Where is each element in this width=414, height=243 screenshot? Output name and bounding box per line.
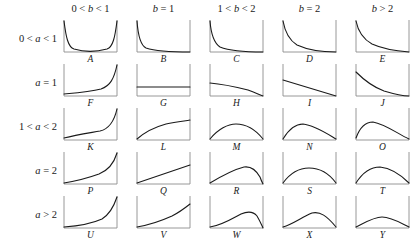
panel-G-axes <box>137 64 190 96</box>
panel-D-plot <box>281 19 338 55</box>
panel-S-plot <box>281 151 338 187</box>
panel-W-letter: W <box>208 230 265 240</box>
panel-C-curve <box>210 21 263 52</box>
panel-E: E <box>354 19 411 55</box>
panel-X-curve <box>283 213 336 227</box>
panel-Y-letter: Y <box>354 230 411 240</box>
panel-O-curve <box>356 122 409 139</box>
panel-A-plot <box>62 19 119 55</box>
panel-L-axes <box>137 108 190 140</box>
panel-K-plot <box>62 107 119 143</box>
panel-Y-curve <box>356 217 409 227</box>
panel-V-axes <box>137 196 190 228</box>
panel-B: B <box>135 19 192 55</box>
row-label-a-1-2: 1 < a < 2 <box>0 120 57 134</box>
panel-U: U <box>62 195 119 231</box>
panel-M-plot <box>208 107 265 143</box>
panel-F-curve <box>64 65 117 94</box>
panel-D: D <box>281 19 338 55</box>
panel-H-plot <box>208 63 265 99</box>
panel-J-curve <box>356 72 409 96</box>
panel-C-axes <box>210 20 263 52</box>
panel-B-plot <box>135 19 192 55</box>
panel-M: M <box>208 107 265 143</box>
panel-A: A <box>62 19 119 55</box>
column-header-b-0-1: 0 < b < 1 <box>62 2 119 16</box>
panel-R: R <box>208 151 265 187</box>
panel-F: F <box>62 63 119 99</box>
panel-V-plot <box>135 195 192 231</box>
panel-N-plot <box>281 107 338 143</box>
panel-W-axes <box>210 196 263 228</box>
panel-C-plot <box>208 19 265 55</box>
row-label-a-0-1: 0 < a < 1 <box>0 32 57 46</box>
panel-O-plot <box>354 107 411 143</box>
panel-T-curve <box>356 167 409 183</box>
panel-N-axes <box>283 108 336 140</box>
panel-H-curve <box>210 83 263 96</box>
panel-V-letter: V <box>135 230 192 240</box>
panel-S: S <box>281 151 338 187</box>
panel-V: V <box>135 195 192 231</box>
row-label-a-eq-2: a = 2 <box>0 164 57 178</box>
panel-K: K <box>62 107 119 143</box>
panel-L: L <box>135 107 192 143</box>
beta-density-shape-grid: 0 < b < 1 b = 1 1 < b < 2 b = 2 b > 2 0 … <box>0 0 414 243</box>
panel-W-plot <box>208 195 265 231</box>
panel-I-curve <box>283 80 336 96</box>
panel-E-plot <box>354 19 411 55</box>
row-label-a-gt-2: a > 2 <box>0 208 57 222</box>
panel-U-curve <box>64 197 117 227</box>
panel-O: O <box>354 107 411 143</box>
panel-H-axes <box>210 64 263 96</box>
panel-Y: Y <box>354 195 411 231</box>
panel-N-curve <box>283 124 336 139</box>
panel-Q-plot <box>135 151 192 187</box>
panel-N: N <box>281 107 338 143</box>
panel-Q-curve <box>137 165 190 183</box>
column-header-b-eq-1: b = 1 <box>135 2 192 16</box>
panel-S-curve <box>283 168 336 183</box>
panel-W-curve <box>210 212 263 228</box>
panel-L-plot <box>135 107 192 143</box>
panel-J-axes <box>356 64 409 96</box>
panel-C: C <box>208 19 265 55</box>
panel-D-curve <box>283 21 336 52</box>
panel-K-curve <box>64 109 117 138</box>
panel-G: G <box>135 63 192 99</box>
panel-T: T <box>354 151 411 187</box>
panel-J-plot <box>354 63 411 99</box>
panel-L-curve <box>137 120 190 139</box>
panel-I-axes <box>283 64 336 96</box>
panel-T-plot <box>354 151 411 187</box>
panel-W: W <box>208 195 265 231</box>
panel-J: J <box>354 63 411 99</box>
panel-Q: Q <box>135 151 192 187</box>
panel-R-axes <box>210 152 263 184</box>
panel-H: H <box>208 63 265 99</box>
panel-R-plot <box>208 151 265 187</box>
panel-U-plot <box>62 195 119 231</box>
panel-B-curve <box>137 21 190 52</box>
panel-Y-plot <box>354 195 411 231</box>
panel-X-letter: X <box>281 230 338 240</box>
row-label-a-eq-1: a = 1 <box>0 76 57 90</box>
column-header-b-gt-2: b > 2 <box>354 2 411 16</box>
panel-R-curve <box>210 167 263 184</box>
panel-P-plot <box>62 151 119 187</box>
panel-X-plot <box>281 195 338 231</box>
panel-I-plot <box>281 63 338 99</box>
column-header-b-eq-2: b = 2 <box>281 2 338 16</box>
panel-T-axes <box>356 152 409 184</box>
panel-P-curve <box>64 153 117 183</box>
column-header-b-1-2: 1 < b < 2 <box>208 2 265 16</box>
panel-I: I <box>281 63 338 99</box>
panel-G-plot <box>135 63 192 99</box>
panel-K-axes <box>64 108 117 140</box>
panel-F-plot <box>62 63 119 99</box>
panel-A-curve <box>64 21 117 51</box>
panel-X: X <box>281 195 338 231</box>
panel-V-curve <box>137 204 190 227</box>
panel-E-curve <box>356 21 409 52</box>
panel-U-letter: U <box>62 230 119 240</box>
